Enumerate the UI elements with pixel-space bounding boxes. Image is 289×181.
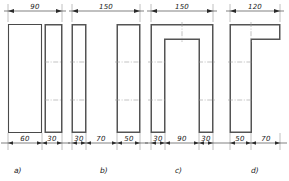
figure-a-right-plate: [45, 25, 62, 133]
figure-caption-c: c): [175, 166, 182, 175]
dim-label-a-1: 60: [20, 135, 30, 143]
figure-b-svg: 150 30: [68, 0, 148, 181]
figure-caption-b: b): [100, 166, 108, 175]
dim-label-d-1: 50: [235, 135, 245, 143]
dim-label-c-top: 150: [175, 3, 189, 11]
bottom-dimension-a: 60 30: [1, 133, 70, 150]
dim-label-d-2: 70: [261, 135, 271, 143]
dim-label-a-2: 30: [47, 135, 57, 143]
dim-label-b-3: 50: [124, 135, 134, 143]
figure-a: 90 60 30 a): [0, 0, 72, 181]
bottom-dimension-d: 50 70: [222, 133, 287, 150]
top-dimension-d: 120: [226, 3, 284, 22]
top-dimension-b: 150: [69, 3, 144, 22]
dim-label-a-top: 90: [30, 3, 40, 11]
figure-caption-a: a): [14, 166, 22, 175]
figure-a-left-plate: [9, 25, 42, 133]
bottom-dimension-b: 30 70 50: [68, 133, 148, 150]
figure-b-left-plate: [72, 25, 86, 133]
figure-a-svg: 90 60 30 a): [0, 0, 72, 181]
dim-label-b-top: 150: [99, 3, 113, 11]
figure-d-l-profile: [230, 25, 280, 133]
figure-d: 120 50 70 d): [222, 0, 289, 181]
dim-label-b-1: 30: [74, 135, 84, 143]
figure-caption-d: d): [251, 166, 259, 175]
dim-label-d-top: 120: [248, 3, 262, 11]
figure-b-right-plate: [117, 25, 140, 133]
figure-c-svg: 150 30: [145, 0, 222, 181]
figure-d-svg: 120 50 70 d): [222, 0, 289, 181]
dim-label-c-1: 30: [153, 135, 163, 143]
dim-label-b-2: 70: [96, 135, 106, 143]
dim-label-c-2: 90: [177, 135, 187, 143]
dim-label-c-3: 30: [201, 135, 211, 143]
figure-b: 150 30: [68, 0, 148, 181]
top-dimension-c: 150: [147, 3, 217, 22]
drawing-sheet: 90 60 30 a): [0, 0, 289, 181]
figure-c: 150 30: [145, 0, 222, 181]
bottom-dimension-c: 30 90 30: [145, 133, 222, 150]
top-dimension-a: 90: [4, 3, 66, 22]
